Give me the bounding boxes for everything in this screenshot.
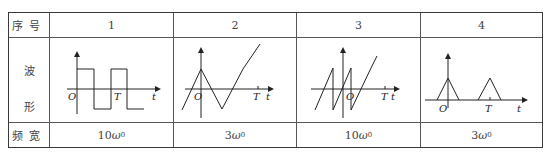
bandwidth-value-1: 10ω0 [50,123,173,147]
period-label: T [114,91,122,102]
omega-symbol: ω [478,129,487,142]
omega-subscript: 0 [241,131,245,139]
square-wave-plot: O T t [50,38,173,122]
triangle-wave-plot: O T t [174,38,296,122]
svg-text:t: t [391,91,396,102]
column-index-1: 1 [50,13,173,37]
sawtooth-wave-plot: O T t [297,38,420,122]
svg-text:O: O [346,91,354,102]
svg-text:T: T [485,103,493,114]
column-index-4: 4 [421,13,542,37]
bandwidth-coef: 10 [98,129,112,142]
svg-text:t: t [517,103,522,114]
column-index-2: 2 [174,13,296,37]
svg-text:T: T [253,91,261,102]
waveform-label-bottom: 形 [24,98,35,114]
origin-label: O [68,91,76,102]
bandwidth-coef: 3 [225,129,232,142]
svg-text:O: O [439,103,447,114]
header-index-label: 序号 [9,13,49,37]
omega-symbol: ω [232,129,241,142]
bandwidth-value-4: 3ω0 [421,123,542,147]
omega-subscript: 0 [487,131,491,139]
omega-symbol: ω [112,129,121,142]
bandwidth-value-3: 10ω0 [297,123,420,147]
column-index-3: 3 [297,13,420,37]
waveform-table: 序号 1 2 3 4 波 形 O T t O T t O T t [8,12,543,148]
svg-text:T: T [381,91,389,102]
bandwidth-coef: 3 [471,129,478,142]
omega-symbol: ω [359,129,368,142]
svg-text:t: t [266,91,271,102]
time-label: t [152,91,157,102]
omega-subscript: 0 [121,131,125,139]
triangular-pulse-plot: O T t [421,38,542,122]
bandwidth-value-2: 3ω0 [174,123,296,147]
omega-subscript: 0 [368,131,372,139]
svg-text:O: O [194,91,202,102]
bandwidth-label: 频宽 [9,123,49,147]
bandwidth-coef: 10 [345,129,359,142]
waveform-label-top: 波 [24,62,35,78]
